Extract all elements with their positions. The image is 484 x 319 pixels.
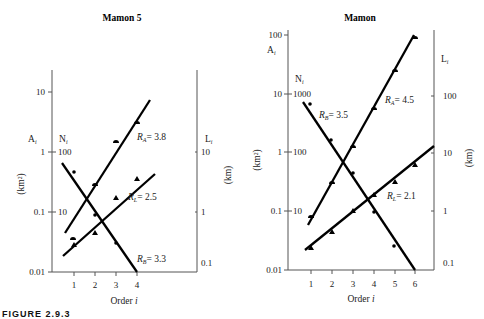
chart-mamon-5: Mamon 5 10 1 0.1 0.01 100 10 Ai Ni (km²): [16, 13, 234, 306]
a-axis-unit: (km²): [16, 173, 27, 194]
ratio-label-number: RB= 3.3: [136, 254, 166, 265]
chart-title: Mamon 5: [103, 13, 142, 23]
l-axis-label: Li: [205, 134, 213, 145]
l-axis-unit: (km): [223, 166, 234, 184]
tick-label: 10: [201, 147, 211, 157]
tick-label: 10: [36, 87, 46, 97]
n-axis-ticks: 1000 100 10: [293, 89, 312, 216]
x-axis-ticks: 1 2 3 4: [72, 272, 140, 290]
x-axis-label: Order i: [347, 294, 375, 304]
tick-label: 1: [309, 279, 314, 289]
tick-label: 100: [293, 147, 307, 157]
tick-label: 0.1: [201, 258, 212, 268]
ratio-label-number: RB= 3.5: [318, 110, 348, 121]
tick-label: 1: [41, 147, 46, 157]
tick-label: 0.1: [34, 207, 45, 217]
tick-label: 0.1: [271, 206, 282, 216]
tick-label: 0.01: [29, 267, 45, 277]
l-axis-ticks: 100 10 1 0.1: [431, 91, 457, 268]
series-area-points: [70, 121, 140, 240]
ratio-label-length: RL= 2.1: [386, 191, 416, 202]
ratio-label-length: RL= 2.5: [127, 192, 157, 203]
series-length-points: [308, 162, 418, 250]
tick-label: 100: [269, 30, 283, 40]
figure-canvas: Mamon 5 10 1 0.1 0.01 100 10 Ai Ni (km²): [0, 0, 484, 319]
tick-label: 4: [135, 280, 140, 290]
a-axis-unit: (km²): [252, 149, 263, 170]
l-axis-unit: (km): [464, 149, 475, 167]
tick-label: 10: [273, 89, 283, 99]
tick-label: 100: [443, 91, 457, 101]
tick-label: 3: [114, 280, 119, 290]
n-axis-ticks: 100 10: [58, 147, 72, 217]
tick-label: 0.01: [266, 265, 282, 275]
tick-label: 5: [393, 279, 398, 289]
chart-title: Mamon: [344, 13, 376, 23]
a-axis-label: Ai: [28, 134, 37, 145]
tick-label: 2: [330, 279, 335, 289]
l-axis-label: Li: [441, 54, 449, 65]
tick-label: 10: [443, 148, 453, 158]
x-axis-label: Order i: [110, 296, 138, 306]
tick-label: 10: [293, 206, 303, 216]
tick-label: 1: [72, 280, 77, 290]
tick-label: 10: [58, 207, 68, 217]
fit-line-number: [303, 102, 415, 270]
a-axis-label: Ai: [267, 45, 276, 56]
l-axis-ticks: 10 1 0.1: [195, 147, 212, 268]
tick-label: 1000: [293, 89, 312, 99]
ratio-label-area: RA= 3.8: [136, 132, 166, 143]
series-length-points: [71, 176, 140, 247]
tick-label: 3: [351, 279, 356, 289]
tick-label: 6: [413, 279, 418, 289]
tick-label: 1: [443, 206, 448, 216]
tick-label: 0.1: [443, 258, 454, 268]
tick-label: 1: [201, 207, 206, 217]
figure-caption: FIGURE 2.9.3: [2, 309, 71, 319]
chart-mamon: Mamon 100 10 1 0.1 0.01 1000 100 10 Ai N…: [252, 13, 475, 304]
n-axis-label: Ni: [295, 74, 304, 85]
fit-line-area: [65, 100, 150, 233]
n-axis-label: Ni: [59, 134, 68, 145]
tick-label: 100: [58, 147, 72, 157]
tick-label: 1: [278, 147, 283, 157]
tick-label: 4: [372, 279, 377, 289]
ratio-label-area: RA= 4.5: [384, 95, 414, 106]
tick-label: 2: [93, 280, 98, 290]
x-axis-ticks: 1 2 3 4 5 6: [309, 270, 418, 289]
